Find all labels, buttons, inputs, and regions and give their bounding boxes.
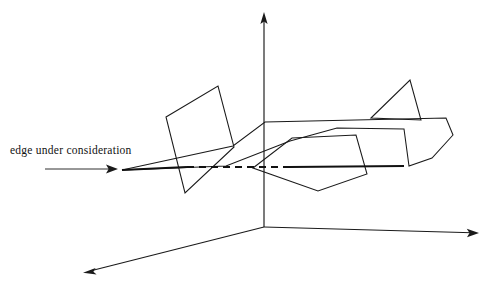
- left-ground-axis: [90, 227, 264, 271]
- left-ground-axis-arrowhead: [83, 268, 97, 275]
- face-pentagon: [253, 135, 367, 191]
- edge-visible-right-segment: [290, 166, 404, 167]
- callout-arrow-group: [45, 165, 118, 174]
- face-wing-polygon: [122, 118, 453, 170]
- diagram-canvas: edge under consideration: [0, 0, 490, 289]
- face-left-quadrilateral: [166, 86, 234, 193]
- right-ground-axis: [264, 227, 472, 233]
- face-fin-triangle: [371, 80, 421, 120]
- edge-under-consideration-label: edge under consideration: [10, 145, 132, 157]
- edge-under-consideration-group: [122, 166, 404, 170]
- axes-group: [83, 12, 479, 275]
- faces-group: [122, 80, 453, 193]
